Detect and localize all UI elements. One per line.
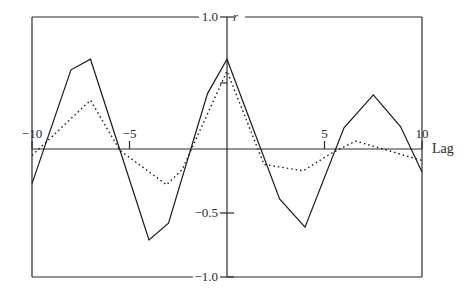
x-tick-label: 10 (416, 126, 429, 141)
y-tick-label: −1.0 (194, 269, 218, 284)
y-tick-label: −0.5 (194, 205, 218, 220)
y-tick-label: 1.0 (202, 9, 218, 24)
x-tick-label: −5 (123, 126, 137, 141)
x-tick-label: 5 (321, 126, 328, 141)
x-axis-label: Lag (432, 141, 454, 156)
tick-labels: −10−55101.0−0.5−1.0 (22, 9, 429, 284)
cross-correlation-chart: −10−55101.0−0.5−1.0 r Lag (0, 0, 476, 295)
x-tick-label: −10 (22, 126, 42, 141)
y-axis-label: r (233, 9, 239, 24)
